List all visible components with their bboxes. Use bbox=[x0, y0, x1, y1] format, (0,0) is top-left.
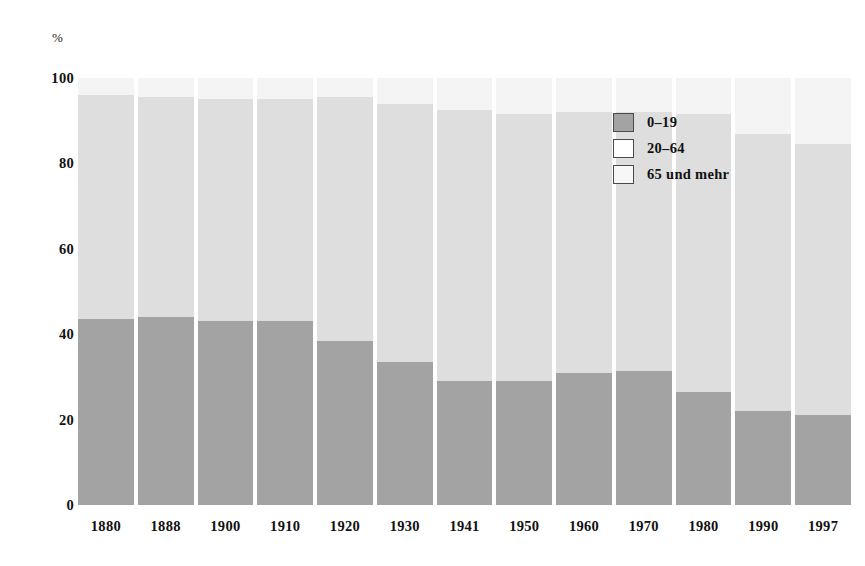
bar-segment-0-19[interactable] bbox=[198, 321, 254, 505]
x-axis-tick-label: 1970 bbox=[616, 518, 672, 535]
x-axis-tick-label: 1960 bbox=[556, 518, 612, 535]
bar-group[interactable] bbox=[795, 78, 851, 505]
bar-group[interactable] bbox=[317, 78, 373, 505]
y-axis-tick-label: 60 bbox=[28, 240, 74, 257]
legend-item-label: 20–64 bbox=[647, 140, 685, 157]
bar-group[interactable] bbox=[138, 78, 194, 505]
bar-segment-0-19[interactable] bbox=[437, 381, 493, 505]
legend-swatch-old-icon bbox=[613, 165, 634, 184]
x-axis-tick-label: 1888 bbox=[138, 518, 194, 535]
bar-segment-20-64[interactable] bbox=[437, 110, 493, 381]
bar-segment-65-plus[interactable] bbox=[795, 78, 851, 144]
x-axis-tick-label: 1880 bbox=[78, 518, 134, 535]
bar-segment-65-plus[interactable] bbox=[257, 78, 313, 99]
x-axis-tick-label: 1997 bbox=[795, 518, 851, 535]
bar-segment-0-19[interactable] bbox=[78, 319, 134, 505]
x-axis-tick-label: 1990 bbox=[735, 518, 791, 535]
bar-segment-0-19[interactable] bbox=[496, 381, 552, 505]
bar-group[interactable] bbox=[198, 78, 254, 505]
y-axis-tick-label: 80 bbox=[28, 155, 74, 172]
legend-swatch-young-icon bbox=[613, 113, 634, 132]
bar-segment-20-64[interactable] bbox=[317, 97, 373, 340]
y-axis: 020406080100 bbox=[12, 0, 74, 566]
bar-segment-20-64[interactable] bbox=[556, 112, 612, 372]
y-axis-tick-label: 40 bbox=[28, 326, 74, 343]
bar-segment-20-64[interactable] bbox=[377, 104, 433, 362]
x-axis-tick-label: 1920 bbox=[317, 518, 373, 535]
bar-segment-0-19[interactable] bbox=[556, 373, 612, 505]
bar-group[interactable] bbox=[556, 78, 612, 505]
legend-item-label: 65 und mehr bbox=[647, 166, 729, 183]
bar-segment-65-plus[interactable] bbox=[556, 78, 612, 112]
chart-legend: 0–1920–6465 und mehr bbox=[613, 110, 803, 188]
bar-segment-20-64[interactable] bbox=[198, 99, 254, 321]
bar-segment-0-19[interactable] bbox=[377, 362, 433, 505]
legend-item-label: 0–19 bbox=[647, 114, 677, 131]
bar-segment-65-plus[interactable] bbox=[317, 78, 373, 97]
bar-segment-20-64[interactable] bbox=[795, 144, 851, 415]
bar-segment-0-19[interactable] bbox=[676, 392, 732, 505]
bar-segment-0-19[interactable] bbox=[616, 371, 672, 506]
y-axis-tick-label: 100 bbox=[28, 70, 74, 87]
bar-segment-20-64[interactable] bbox=[496, 114, 552, 381]
bar-segment-65-plus[interactable] bbox=[437, 78, 493, 110]
bar-segment-65-plus[interactable] bbox=[377, 78, 433, 104]
x-axis-tick-label: 1900 bbox=[198, 518, 254, 535]
y-axis-tick-label: 0 bbox=[28, 497, 74, 514]
bar-segment-65-plus[interactable] bbox=[78, 78, 134, 95]
bar-segment-65-plus[interactable] bbox=[496, 78, 552, 114]
x-axis-tick-label: 1980 bbox=[676, 518, 732, 535]
x-axis: 1880188819001910192019301941195019601970… bbox=[78, 512, 855, 546]
legend-item: 20–64 bbox=[613, 136, 803, 160]
legend-item: 65 und mehr bbox=[613, 162, 803, 186]
bar-segment-20-64[interactable] bbox=[138, 97, 194, 317]
legend-swatch-mid-icon bbox=[613, 139, 634, 158]
bar-segment-0-19[interactable] bbox=[317, 341, 373, 505]
bar-group[interactable] bbox=[437, 78, 493, 505]
bar-group[interactable] bbox=[257, 78, 313, 505]
x-axis-tick-label: 1941 bbox=[437, 518, 493, 535]
x-axis-tick-label: 1950 bbox=[496, 518, 552, 535]
bar-segment-65-plus[interactable] bbox=[138, 78, 194, 97]
bar-segment-20-64[interactable] bbox=[257, 99, 313, 321]
stacked-bar-chart: % 020406080100 1880188819001910192019301… bbox=[0, 0, 865, 566]
x-axis-tick-label: 1930 bbox=[377, 518, 433, 535]
bar-segment-0-19[interactable] bbox=[138, 317, 194, 505]
x-axis-tick-label: 1910 bbox=[257, 518, 313, 535]
bar-group[interactable] bbox=[377, 78, 433, 505]
bar-segment-65-plus[interactable] bbox=[616, 78, 672, 112]
bar-segment-65-plus[interactable] bbox=[198, 78, 254, 99]
bar-segment-20-64[interactable] bbox=[78, 95, 134, 319]
bar-segment-0-19[interactable] bbox=[795, 415, 851, 505]
bar-segment-65-plus[interactable] bbox=[676, 78, 732, 114]
bar-group[interactable] bbox=[496, 78, 552, 505]
bar-segment-0-19[interactable] bbox=[257, 321, 313, 505]
y-axis-tick-label: 20 bbox=[28, 411, 74, 428]
bar-segment-0-19[interactable] bbox=[735, 411, 791, 505]
bar-group[interactable] bbox=[78, 78, 134, 505]
legend-item: 0–19 bbox=[613, 110, 803, 134]
